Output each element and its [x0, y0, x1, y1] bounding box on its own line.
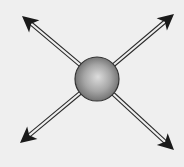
arrow-down-right-head-icon	[157, 133, 174, 150]
sphere-arrows-diagram	[0, 0, 184, 167]
arrow-down-left	[20, 92, 81, 143]
arrow-up-right	[113, 14, 174, 66]
sphere	[75, 57, 119, 101]
arrow-up-left	[22, 16, 81, 66]
arrow-down-right	[112, 93, 174, 150]
